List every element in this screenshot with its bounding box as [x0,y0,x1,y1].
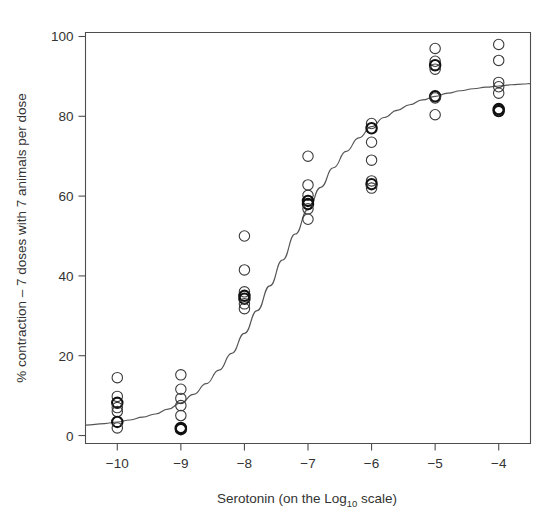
x-tick-label: −9 [173,456,188,471]
data-point [494,55,504,65]
data-point [239,265,249,275]
fitted-curve [86,84,531,426]
data-point [366,155,376,165]
plot-panel-border [86,33,531,444]
svg-text:Serotonin (on the Log10 scale): Serotonin (on the Log10 scale) [217,491,397,509]
data-point [112,372,122,382]
x-tick-label: −6 [364,456,379,471]
data-points [112,39,504,434]
data-point [176,410,186,420]
x-tick-label: −8 [237,456,252,471]
data-point [176,370,186,380]
data-point [303,180,313,190]
data-point [494,88,504,98]
data-point [430,43,440,53]
x-tick-label: −5 [427,456,442,471]
y-tick-label: 20 [58,349,73,364]
y-tick-label: 80 [58,109,73,124]
data-point [494,39,504,49]
x-tick-label: −7 [300,456,315,471]
x-axis-ticks: −10−9−8−7−6−5−4 [106,444,507,471]
data-point [176,400,186,410]
x-axis-title: Serotonin (on the Log10 scale) [217,491,397,509]
y-tick-label: 100 [51,29,74,44]
data-point [366,137,376,147]
data-point [430,110,440,120]
y-axis-title: % contraction – 7 doses with 7 animals p… [14,93,29,383]
y-tick-label: 60 [58,189,73,204]
x-tick-label: −4 [491,456,507,471]
data-point [239,231,249,241]
y-tick-label: 40 [58,269,73,284]
x-tick-label: −10 [106,456,129,471]
y-tick-label: 0 [66,429,74,444]
data-point [303,214,313,224]
svg-text:% contraction – 7 doses with 7: % contraction – 7 doses with 7 animals p… [14,93,29,383]
y-axis-ticks: 020406080100 [51,29,86,443]
chart-figure: 020406080100 −10−9−8−7−6−5−4 Serotonin (… [0,0,559,530]
scatter-plot-canvas: 020406080100 −10−9−8−7−6−5−4 Serotonin (… [0,0,559,530]
data-point [303,151,313,161]
